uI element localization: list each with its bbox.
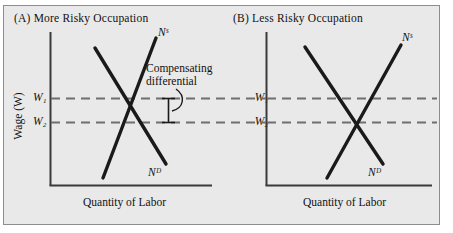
panel-a-tick-w2: W₂: [33, 115, 47, 127]
figure-container: (A) More Risky Occupation (B) Less Risky…: [0, 0, 453, 233]
panel-a-y-axis-label: Wage (W): [12, 81, 24, 151]
annotation-line-2: differential: [146, 75, 212, 88]
panel-a-demand-curve-label: Nᴰ: [148, 166, 161, 178]
panel-a-tick-w1: W₁: [33, 91, 47, 103]
figure-frame: [3, 5, 440, 225]
panel-b-x-axis-label: Quantity of Labor: [303, 196, 386, 208]
panel-b-tick-w1: –W₁: [249, 91, 268, 103]
compensating-differential-annotation: Compensating differential: [146, 62, 212, 88]
annotation-line-1: Compensating: [146, 62, 212, 75]
panel-a-supply-curve-label: Nˢ: [158, 26, 168, 38]
panel-b-supply-curve-label: Nˢ: [402, 31, 412, 43]
panel-b-demand-curve-label: Nᴰ: [368, 166, 381, 178]
panel-a-title: (A) More Risky Occupation: [14, 12, 148, 24]
panel-b-title: (B) Less Risky Occupation: [233, 12, 363, 24]
panel-a-x-axis-label: Quantity of Labor: [83, 196, 166, 208]
panel-b-tick-w2: –W₂: [249, 115, 268, 127]
